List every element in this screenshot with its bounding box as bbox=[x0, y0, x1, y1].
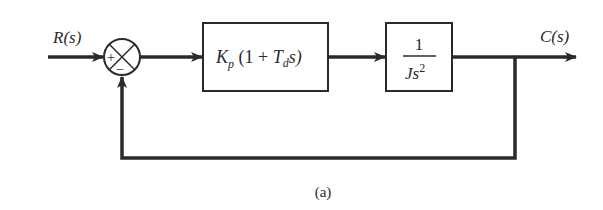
output-signal: C(s) bbox=[452, 27, 576, 57]
block-diagram: R(s) + − Kp (1 + Tds) 1 Js2 C(s) (a) bbox=[0, 0, 603, 210]
input-signal: R(s) bbox=[48, 28, 103, 57]
output-label: C(s) bbox=[540, 27, 570, 46]
plus-sign: + bbox=[107, 50, 115, 65]
figure-caption: (a) bbox=[315, 184, 332, 201]
plant-block: 1 Js2 bbox=[386, 23, 452, 91]
controller-block: Kp (1 + Tds) bbox=[203, 23, 328, 91]
plant-numerator: 1 bbox=[415, 35, 424, 54]
branch-point bbox=[514, 56, 517, 59]
minus-sign: − bbox=[116, 62, 124, 77]
input-label: R(s) bbox=[52, 28, 82, 47]
summing-junction: + − bbox=[104, 39, 140, 77]
